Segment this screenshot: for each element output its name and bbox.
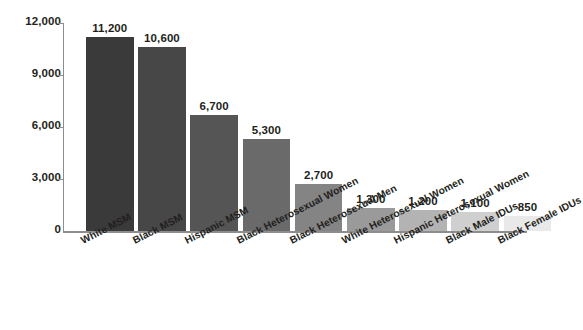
bar-value-label: 10,600 <box>144 32 180 44</box>
y-axis-tick-label: 12,000 <box>25 15 61 27</box>
bar-value-label: 850 <box>518 201 538 213</box>
bar-value-label: 2,700 <box>304 169 333 181</box>
y-axis-tick-label: 9,000 <box>32 67 61 79</box>
bar-value-label: 11,200 <box>92 22 127 34</box>
plot-area: 11,20010,6006,7005,3002,7001,3001,2001,1… <box>63 23 527 231</box>
bar <box>86 37 134 231</box>
y-axis-tick-label: 3,000 <box>32 171 61 183</box>
bar-group: 11,200 <box>86 23 134 231</box>
bar <box>138 47 186 231</box>
bar-value-label: 6,700 <box>200 100 229 112</box>
bar-group: 5,300 <box>243 23 291 231</box>
bar-group: 6,700 <box>190 23 238 231</box>
y-axis-tick-label: 0 <box>55 223 62 235</box>
bar-group: 10,600 <box>138 23 186 231</box>
bar-group: 850 <box>504 23 552 231</box>
y-axis-tick-label: 6,000 <box>32 119 61 131</box>
bar-value-label: 5,300 <box>252 124 281 136</box>
